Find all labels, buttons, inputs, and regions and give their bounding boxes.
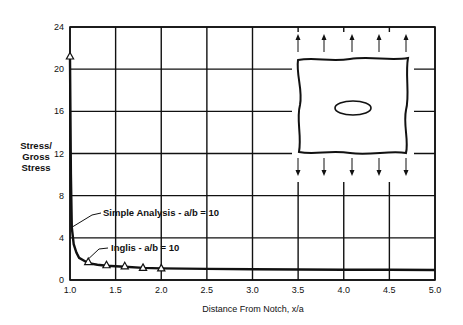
triangle-marker-icon: [66, 53, 73, 60]
y-tick-label: 4: [59, 233, 64, 243]
x-tick-label: 3.0: [246, 285, 259, 295]
x-axis-label: Distance From Notch, x/a: [202, 304, 304, 314]
plate-outline: [298, 58, 408, 154]
y-tick-label: 8: [59, 191, 64, 201]
annotation-leader-inglis: [88, 248, 108, 259]
y-tick-label: 12: [54, 149, 64, 159]
y-tick-label: 16: [54, 106, 64, 116]
x-tick-label: 1.5: [109, 285, 122, 295]
x-tick-label: 2.5: [201, 285, 214, 295]
x-tick-label: 2.0: [155, 285, 168, 295]
annotation-inglis: Inglis - a/b = 10: [111, 242, 179, 253]
x-tick-label: 1.0: [64, 285, 77, 295]
x-tick-label: 4.0: [337, 285, 350, 295]
x-tick-label: 3.5: [292, 285, 305, 295]
annotation-leader-simple: [72, 213, 101, 227]
annotation-simple-analysis: Simple Analysis - a/b = 10: [103, 207, 219, 218]
x-tick-label: 5.0: [429, 285, 442, 295]
x-tick-label: 4.5: [383, 285, 396, 295]
y-tick-label: 0: [59, 275, 64, 285]
y-tick-label: 20: [54, 64, 64, 74]
annotations: Simple Analysis - a/b = 10Inglis - a/b =…: [72, 207, 219, 259]
y-tick-label: 24: [54, 22, 64, 32]
stress-chart: 1.01.52.02.53.03.54.04.55.004812162024 S…: [0, 0, 463, 325]
